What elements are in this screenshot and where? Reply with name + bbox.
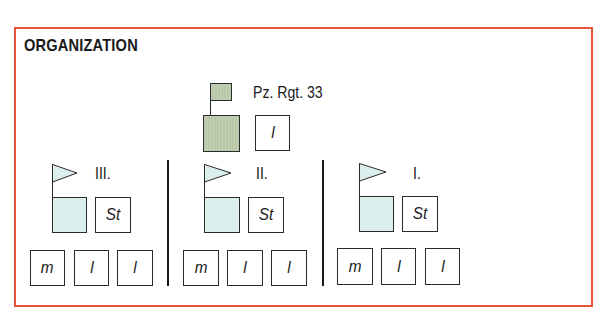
regiment-light-company: l xyxy=(255,115,290,151)
battalion-3-company-3: l xyxy=(117,250,153,286)
battalion-2-hq-symbol xyxy=(204,197,240,233)
section-title: ORGANIZATION xyxy=(24,36,138,56)
battalion-1-company-3: l xyxy=(425,248,460,285)
regiment-flag-pole xyxy=(210,101,211,115)
regiment-flag-icon xyxy=(210,83,232,101)
battalion-3-company-1: m xyxy=(30,250,65,286)
battalion-1-label: I. xyxy=(413,165,421,183)
battalion-3-label: III. xyxy=(95,165,111,183)
battalion-1-flag-icon xyxy=(359,163,395,197)
battalion-3-hq-symbol xyxy=(52,197,87,233)
regiment-label: Pz. Rgt. 33 xyxy=(253,84,323,102)
battalion-3-company-2: l xyxy=(74,250,109,286)
battalion-1-staff: St xyxy=(402,196,438,232)
column-divider-1 xyxy=(167,160,169,286)
battalion-1-hq-symbol xyxy=(359,196,394,232)
battalion-3-flag-icon xyxy=(52,164,88,198)
battalion-2-company-1: m xyxy=(183,250,219,286)
battalion-2-label: II. xyxy=(256,165,268,183)
battalion-2-staff: St xyxy=(248,197,284,233)
battalion-1-company-1: m xyxy=(337,248,373,285)
regiment-hq-symbol xyxy=(203,115,240,152)
battalion-2-flag-icon xyxy=(204,164,240,198)
battalion-2-company-2: l xyxy=(227,250,263,286)
battalion-3-staff: St xyxy=(95,197,131,233)
battalion-1-company-2: l xyxy=(381,248,416,285)
column-divider-2 xyxy=(322,160,324,286)
battalion-2-company-3: l xyxy=(271,250,307,286)
